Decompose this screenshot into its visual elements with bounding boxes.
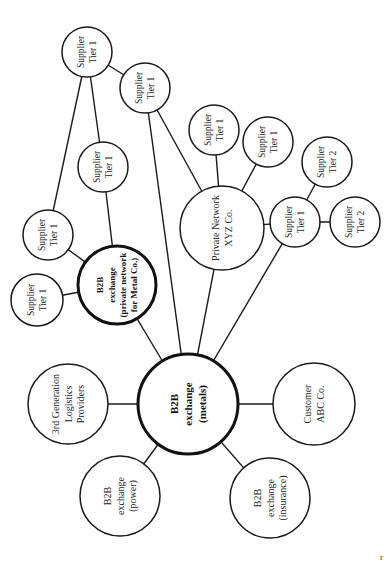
- node-circle: [243, 117, 293, 167]
- node-circle: [23, 210, 73, 260]
- node-customer: CustomerABC Co.: [273, 363, 355, 445]
- node-metal: B2Bexchange(private networkfor Metal Co.…: [78, 246, 156, 324]
- node-s_d: SupplierTier 1: [62, 27, 112, 77]
- node-circle: [120, 63, 170, 113]
- node-s_e: SupplierTier 1: [120, 63, 170, 113]
- node-label: CustomerABC Co.: [302, 384, 326, 424]
- node-s_c: SupplierTier 1: [78, 142, 128, 192]
- node-s_b: SupplierTier 1: [23, 210, 73, 260]
- node-circle: [302, 137, 352, 187]
- node-s_i: SupplierTier 2: [302, 137, 352, 187]
- node-circle: [62, 27, 112, 77]
- node-power: B2Bexchange(power): [80, 456, 160, 536]
- corner-mark: r: [380, 552, 383, 562]
- node-s_a: SupplierTier 1: [11, 274, 63, 326]
- node-s_j: SupplierTier 2: [330, 197, 380, 247]
- node-insurance: B2Bexchange(insurance): [230, 458, 310, 538]
- node-logistics: 3rd GenerationLogisticsProviders: [28, 364, 108, 444]
- node-s_f: SupplierTier 1: [189, 105, 239, 155]
- node-circle: [78, 142, 128, 192]
- node-s_g: SupplierTier 1: [243, 117, 293, 167]
- edge-s_b-s_d: [48, 52, 87, 235]
- node-hub: B2Bexchange(metals): [138, 354, 238, 454]
- node-xyz: Private NetworkXYZ Co.: [180, 186, 264, 270]
- node-circle: [189, 105, 239, 155]
- node-circle: [330, 197, 380, 247]
- node-circle: [11, 274, 63, 326]
- network-nodes: B2Bexchange(metals)B2Bexchange(private n…: [11, 27, 380, 538]
- node-circle: [270, 197, 320, 247]
- node-s_h: SupplierTier 1: [270, 197, 320, 247]
- network-diagram: B2Bexchange(metals)B2Bexchange(private n…: [0, 0, 392, 564]
